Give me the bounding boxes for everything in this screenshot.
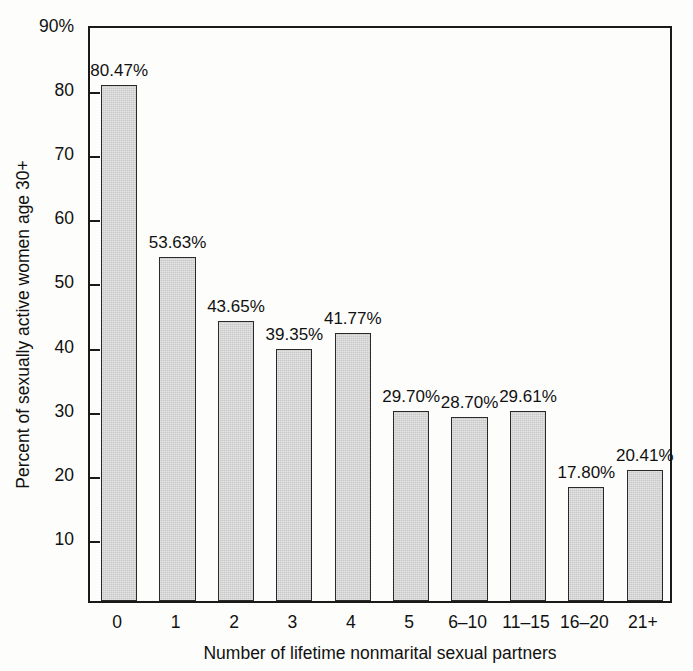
- y-axis-tick-label: 30: [55, 400, 74, 421]
- bar-slot: 80.47%: [90, 28, 148, 601]
- x-axis-tick-label: 21+: [628, 612, 658, 633]
- bar-value-label: 20.41%: [616, 446, 674, 466]
- bar-value-label: 41.77%: [324, 309, 382, 329]
- bar[interactable]: [335, 333, 371, 601]
- bar-slot: 20.41%: [616, 28, 674, 601]
- bar-slot: 43.65%: [207, 28, 265, 601]
- bar[interactable]: [451, 417, 487, 601]
- y-axis-title: Percent of sexually active women age 30+: [13, 45, 34, 605]
- bar-value-label: 39.35%: [266, 325, 324, 345]
- y-axis-tick-label: 10: [55, 528, 74, 549]
- bar[interactable]: [276, 349, 312, 601]
- bar[interactable]: [159, 257, 195, 601]
- bar-slot: 29.70%: [382, 28, 440, 601]
- bar-slot: 17.80%: [557, 28, 615, 601]
- bar-slot: 53.63%: [148, 28, 206, 601]
- y-axis-tick-label: 50: [55, 272, 74, 293]
- bar[interactable]: [218, 321, 254, 601]
- bar[interactable]: [568, 487, 604, 601]
- bar-value-label: 80.47%: [90, 61, 148, 81]
- x-axis-tick-label: 11–15: [502, 612, 549, 633]
- bar-value-label: 17.80%: [558, 463, 616, 483]
- y-axis-tick-label: 70: [55, 144, 74, 165]
- plot-area: 80.47%53.63%43.65%39.35%41.77%29.70%28.7…: [88, 26, 672, 603]
- x-axis-tick-label: 16–20: [560, 612, 609, 633]
- y-axis-tick-label: 20: [55, 464, 74, 485]
- bar-value-label: 28.70%: [441, 393, 499, 413]
- x-axis-tick-label: 3: [288, 612, 298, 633]
- y-axis-tick-label: 40: [55, 336, 74, 357]
- bar-value-label: 43.65%: [207, 297, 265, 317]
- bar-slot: 28.70%: [440, 28, 498, 601]
- bar[interactable]: [510, 411, 546, 601]
- y-axis-tick-label: 60: [55, 208, 74, 229]
- bar-value-label: 29.61%: [499, 387, 557, 407]
- y-axis-tick-label: 80: [55, 80, 74, 101]
- x-axis-tick-label: 1: [171, 612, 181, 633]
- x-axis-tick-label: 5: [404, 612, 414, 633]
- bar-slot: 29.61%: [499, 28, 557, 601]
- bar[interactable]: [393, 411, 429, 601]
- x-axis-tick-label: 6–10: [448, 612, 487, 633]
- x-axis-tick-label: 0: [112, 612, 122, 633]
- bar-slot: 41.77%: [324, 28, 382, 601]
- bar[interactable]: [627, 470, 663, 601]
- x-axis-tick-label: 4: [346, 612, 356, 633]
- x-axis-tick-labels: 0123456–1011–1516–2021+: [88, 612, 672, 642]
- x-axis-tick-label: 2: [229, 612, 239, 633]
- bar[interactable]: [101, 85, 137, 601]
- y-axis-tick-label: 90%: [39, 16, 74, 37]
- bar-value-label: 29.70%: [382, 387, 440, 407]
- bar-value-label: 53.63%: [149, 233, 207, 253]
- bar-slot: 39.35%: [265, 28, 323, 601]
- x-axis-title: Number of lifetime nonmarital sexual par…: [88, 643, 672, 664]
- bar-chart-figure: 90%8070605040302010 Percent of sexually …: [0, 0, 693, 671]
